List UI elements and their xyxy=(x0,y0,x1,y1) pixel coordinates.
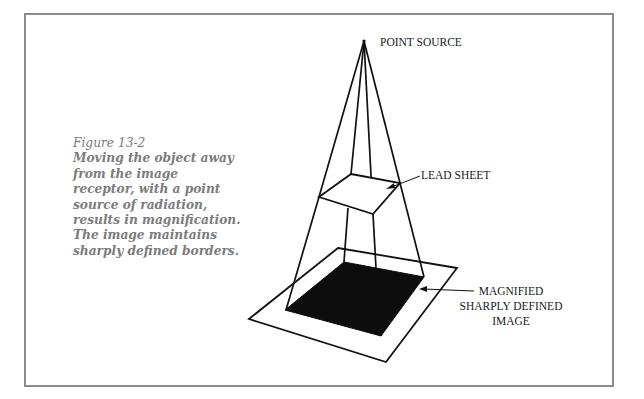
lead-sheet xyxy=(319,174,400,214)
label-image-line1: MAGNIFIED xyxy=(451,284,571,299)
label-lead-sheet: LEAD SHEET xyxy=(421,168,490,183)
label-point-source: POINT SOURCE xyxy=(380,35,462,50)
label-image-line2: SHARPLY DEFINED xyxy=(451,299,571,314)
figure-caption-text: Moving the object away from the image re… xyxy=(73,151,243,259)
figure-number: Figure 13-2 xyxy=(73,136,243,151)
point-source-dot xyxy=(362,39,365,42)
label-image-line3: IMAGE xyxy=(451,314,571,329)
label-magnified-image: MAGNIFIED SHARPLY DEFINED IMAGE xyxy=(451,284,571,329)
figure-caption: Figure 13-2 Moving the object away from … xyxy=(73,136,243,259)
